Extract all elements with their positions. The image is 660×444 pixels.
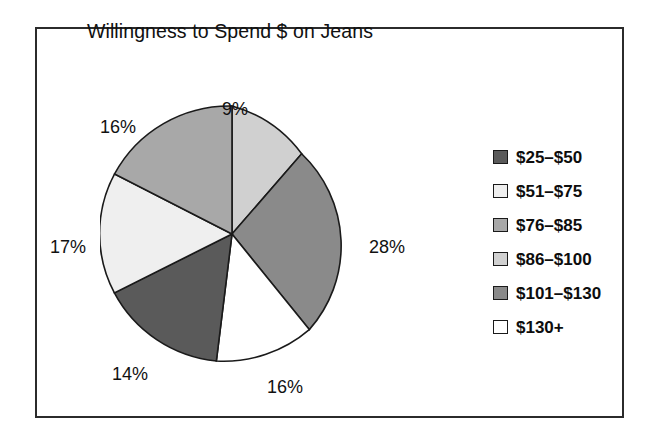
pie-label-16-percent-bottom: 16% bbox=[267, 378, 303, 396]
legend-label: $25–$50 bbox=[516, 149, 582, 166]
legend-swatch-icon bbox=[493, 320, 508, 334]
figure-canvas: Willingness to Spend $ on Jeans 9% 28% 1… bbox=[0, 0, 660, 444]
pie-label-14-percent: 14% bbox=[112, 365, 148, 383]
legend-item-76-85[interactable]: $76–$85 bbox=[493, 208, 623, 242]
legend-item-25-50[interactable]: $25–$50 bbox=[493, 140, 623, 174]
chart-legend: $25–$50 $51–$75 $76–$85 $86–$100 $101–$1… bbox=[493, 140, 623, 344]
legend-swatch-icon bbox=[493, 286, 508, 300]
pie-label-28-percent: 28% bbox=[369, 238, 405, 256]
pie-label-9-percent: 9% bbox=[222, 100, 248, 118]
pie-label-17-percent: 17% bbox=[50, 238, 86, 256]
legend-item-101-130[interactable]: $101–$130 bbox=[493, 276, 623, 310]
pie-label-16-percent-top: 16% bbox=[100, 118, 136, 136]
legend-swatch-icon bbox=[493, 150, 508, 164]
legend-swatch-icon bbox=[493, 252, 508, 266]
legend-item-86-100[interactable]: $86–$100 bbox=[493, 242, 623, 276]
legend-swatch-icon bbox=[493, 184, 508, 198]
pie-chart bbox=[100, 103, 368, 365]
legend-label: $51–$75 bbox=[516, 183, 582, 200]
legend-label: $76–$85 bbox=[516, 217, 582, 234]
legend-item-130-plus[interactable]: $130+ bbox=[493, 310, 623, 344]
pie-slices bbox=[100, 106, 341, 361]
legend-swatch-icon bbox=[493, 218, 508, 232]
legend-label: $86–$100 bbox=[516, 251, 592, 268]
chart-title: Willingness to Spend $ on Jeans bbox=[0, 20, 460, 43]
legend-label: $101–$130 bbox=[516, 285, 601, 302]
pie-chart-svg bbox=[100, 103, 368, 365]
legend-label: $130+ bbox=[516, 319, 564, 336]
legend-item-51-75[interactable]: $51–$75 bbox=[493, 174, 623, 208]
